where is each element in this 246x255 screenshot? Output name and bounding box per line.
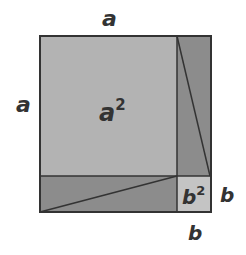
label-left-a: a <box>16 92 31 117</box>
label-right-b: b <box>220 183 234 207</box>
pythagorean-diagram: a a a2 b2 b b <box>0 0 246 255</box>
label-top-a: a <box>102 6 117 31</box>
label-bottom-b: b <box>188 221 202 245</box>
